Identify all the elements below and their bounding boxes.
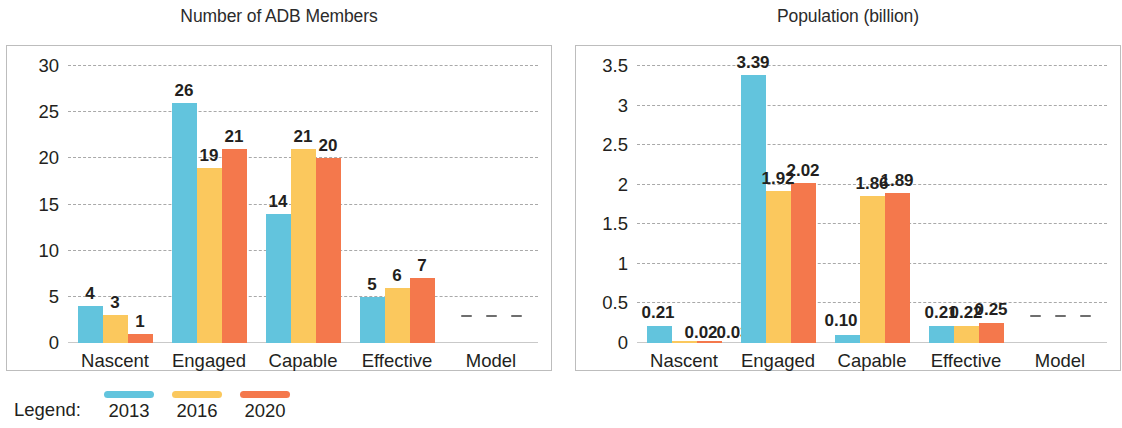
bar-value-label: 2.02 (786, 162, 819, 179)
legend-year-label: 2013 (102, 401, 156, 420)
y-axis-tick-label: 1.5 (602, 215, 628, 234)
chart-title-right: Population (billion) (574, 6, 1122, 27)
y-axis-tick-label: 1 (618, 255, 628, 274)
x-axis-tick-label: Nascent (81, 352, 149, 371)
bar-group: 3.391.922.02Engaged (731, 66, 825, 343)
legend-item[interactable]: 2013 (102, 385, 156, 420)
bar[interactable] (741, 75, 766, 343)
x-axis-tick-label: Model (1035, 352, 1085, 371)
x-axis-tick-label: Engaged (741, 352, 815, 371)
y-axis-tick-label: 15 (38, 195, 59, 214)
y-axis-tick-label: 3.5 (602, 57, 628, 76)
bar[interactable] (291, 149, 316, 343)
bar-group-bars (350, 66, 444, 343)
bar-value-label: 14 (269, 193, 288, 210)
bar[interactable] (103, 315, 128, 343)
bar[interactable] (835, 335, 860, 343)
bar-value-label: 3.39 (736, 54, 769, 71)
bar-group-bars (162, 66, 256, 343)
legend-year-label: 2016 (170, 401, 224, 420)
legend-swatch (172, 391, 222, 398)
legend-label: Legend: (14, 399, 81, 421)
bar[interactable] (929, 326, 954, 343)
bar[interactable] (860, 196, 885, 343)
chart-frame-left: 051015202530431Nascent261921Engaged14212… (6, 45, 552, 371)
chart-panel-number-of-adb-members: Number of ADB Members 051015202530431Nas… (5, 0, 553, 372)
y-axis-tick-label: 2.5 (602, 136, 628, 155)
no-data-dash (461, 315, 472, 317)
bar[interactable] (885, 193, 910, 343)
y-axis-tick-label: 3 (618, 96, 628, 115)
x-axis-tick-label: Capable (838, 352, 907, 371)
bar[interactable] (385, 288, 410, 343)
bar[interactable] (979, 323, 1004, 343)
plot-area-right: 00.511.522.533.50.210.020.03Nascent3.391… (637, 66, 1107, 343)
bar[interactable] (222, 149, 247, 343)
y-axis-tick-label: 0 (618, 334, 628, 353)
x-axis-tick-label: Engaged (172, 352, 246, 371)
bar-value-label: 3 (110, 294, 119, 311)
bar-value-label: 1.89 (880, 172, 913, 189)
bar[interactable] (197, 168, 222, 343)
legend-year-label: 2020 (238, 401, 292, 420)
x-axis-tick-label: Effective (931, 352, 1002, 371)
bar-group-bars (1013, 66, 1107, 343)
legend-swatch (104, 391, 154, 398)
legend-items: 201320162020 (102, 385, 292, 420)
bar[interactable] (316, 158, 341, 343)
legend-item[interactable]: 2020 (238, 385, 292, 420)
bar-group: 142120Capable (256, 66, 350, 343)
bar-value-label: 0.25 (974, 301, 1007, 318)
y-axis-tick-label: 30 (38, 57, 59, 76)
bar-group: 0.101.861.89Capable (825, 66, 919, 343)
no-data-dash (1080, 315, 1091, 317)
x-axis-tick-label: Nascent (650, 352, 718, 371)
bar[interactable] (954, 326, 979, 343)
plot-area-left: 051015202530431Nascent261921Engaged14212… (68, 66, 538, 343)
bar-value-label: 6 (392, 267, 401, 284)
no-data-dash (1055, 315, 1066, 317)
bar-group: 567Effective (350, 66, 444, 343)
bar[interactable] (128, 334, 153, 343)
no-data-dash (1030, 315, 1041, 317)
bar-value-label: 26 (175, 82, 194, 99)
y-axis-tick-label: 10 (38, 241, 59, 260)
bar[interactable] (360, 297, 385, 343)
bar-group-bars (731, 66, 825, 343)
bar-value-label: 4 (85, 285, 94, 302)
bar-group-bars (825, 66, 919, 343)
bar-group-bars (637, 66, 731, 343)
x-axis-tick-label: Capable (269, 352, 338, 371)
legend-swatch (240, 391, 290, 398)
bar-group: Model (1013, 66, 1107, 343)
bar[interactable] (172, 103, 197, 343)
bar-value-label: 0.10 (824, 312, 857, 329)
bar[interactable] (410, 278, 435, 343)
chart-frame-right: 00.511.522.533.50.210.020.03Nascent3.391… (575, 45, 1121, 371)
bar-value-label: 0.02 (684, 324, 717, 341)
bar[interactable] (266, 214, 291, 343)
bar-value-label: 7 (417, 257, 426, 274)
bar[interactable] (647, 326, 672, 343)
bar-value-label: 21 (225, 128, 244, 145)
bar[interactable] (791, 183, 816, 343)
bar-value-label: 19 (200, 147, 219, 164)
bar-value-label: 0.21 (641, 304, 674, 321)
bar-group: 0.210.020.03Nascent (637, 66, 731, 343)
bar[interactable] (766, 191, 791, 343)
x-axis-tick-label: Effective (362, 352, 433, 371)
legend-item[interactable]: 2016 (170, 385, 224, 420)
bar-group: 261921Engaged (162, 66, 256, 343)
bar-group: 0.210.220.25Effective (919, 66, 1013, 343)
bar-value-label: 21 (294, 128, 313, 145)
bar-value-label: 1 (135, 313, 144, 330)
bar-group-bars (444, 66, 538, 343)
bar-value-label: 5 (367, 276, 376, 293)
y-axis-tick-label: 2 (618, 175, 628, 194)
x-axis-tick-label: Model (466, 352, 516, 371)
y-axis-tick-label: 5 (49, 288, 59, 307)
bar-group: Model (444, 66, 538, 343)
bar[interactable] (78, 306, 103, 343)
y-axis-tick-label: 20 (38, 149, 59, 168)
